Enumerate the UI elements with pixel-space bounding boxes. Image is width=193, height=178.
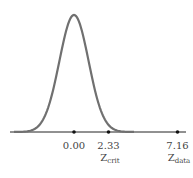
tick-label-7-16: 7.16 [166,140,188,151]
zdata-label: Zdata [168,152,191,165]
tick-zdata [176,130,180,134]
zcrit-label: Zcrit [100,152,119,165]
normal-curve-diagram [0,0,193,178]
tick-label-2-33: 2.33 [97,140,119,151]
tick-label-0: 0.00 [63,140,85,151]
tick-zcrit [107,130,111,134]
normal-curve [14,15,134,132]
tick-0 [72,130,76,134]
